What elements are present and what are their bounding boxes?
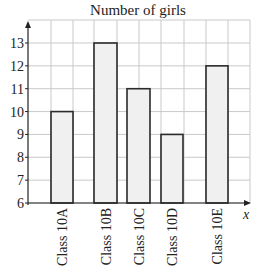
y-tick-label: 10 xyxy=(10,105,24,120)
y-tick-label: 9 xyxy=(17,127,24,142)
y-tick-label: 11 xyxy=(11,82,24,97)
y-tick-label: 8 xyxy=(17,150,24,165)
chart-title: Number of girls xyxy=(90,2,186,18)
y-tick-label: 6 xyxy=(17,196,24,211)
bar-class-10a xyxy=(51,112,73,203)
y-tick-label: 7 xyxy=(17,173,24,188)
category-label: Class 10A xyxy=(55,207,70,266)
y-tick-label: 13 xyxy=(10,36,24,51)
y-axis-arrow-icon xyxy=(25,21,31,28)
bar-class-10b xyxy=(94,43,117,203)
bar-chart: Number of girls 678910111213 Class 10ACl… xyxy=(0,0,258,276)
category-label: Class 10D xyxy=(165,208,180,266)
category-labels: Class 10AClass 10BClass 10CClass 10DClas… xyxy=(55,207,225,266)
bar-class-10e xyxy=(206,66,228,203)
category-label: Class 10B xyxy=(99,208,114,265)
y-tick-label: 12 xyxy=(10,59,24,74)
x-axis-label: x xyxy=(242,207,250,222)
category-label: Class 10C xyxy=(132,208,147,265)
category-label: Class 10E xyxy=(210,208,225,264)
bar-class-10d xyxy=(161,134,183,203)
y-tick-labels: 678910111213 xyxy=(10,36,28,211)
bar-class-10c xyxy=(127,89,150,203)
